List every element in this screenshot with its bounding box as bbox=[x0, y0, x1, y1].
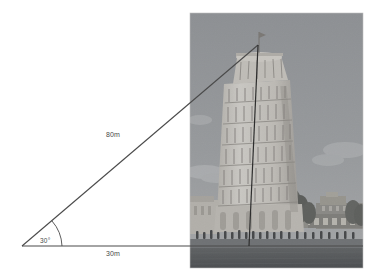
pisa-photograph bbox=[185, 13, 367, 268]
hypotenuse-label: 80m bbox=[106, 131, 120, 138]
figure-canvas: 80m 30m 30° bbox=[0, 0, 367, 275]
photo-grain bbox=[190, 13, 363, 268]
base-label: 30m bbox=[106, 250, 120, 257]
pisa-trigonometry-figure: 80m 30m 30° bbox=[0, 0, 367, 275]
angle-label: 30° bbox=[40, 237, 51, 244]
